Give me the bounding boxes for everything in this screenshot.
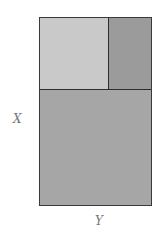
y-axis-label: Y — [95, 214, 103, 228]
region-bottom — [40, 90, 151, 205]
x-axis-label: X — [13, 112, 22, 126]
region-top-right — [109, 18, 151, 90]
partition-diagram — [39, 17, 152, 206]
region-top-left — [40, 18, 109, 90]
